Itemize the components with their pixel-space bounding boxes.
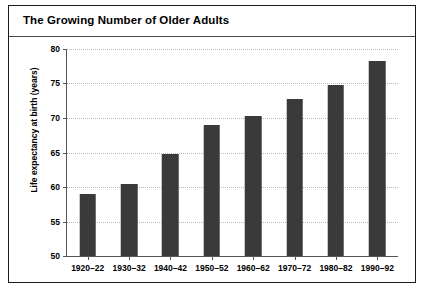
plot-area: 50556065707580 1920–221930–321940–421950… <box>66 49 398 257</box>
y-tick-mark <box>63 256 67 257</box>
bar-category-slot: 1990–92 <box>357 49 398 256</box>
bar[interactable] <box>79 194 96 256</box>
bar[interactable] <box>204 125 221 256</box>
bar[interactable] <box>121 184 138 256</box>
figure-container: The Growing Number of Older Adults Life … <box>8 5 416 283</box>
y-tick-label: 70 <box>51 113 60 123</box>
x-tick-mark <box>295 256 296 260</box>
x-tick-label: 1940–42 <box>154 263 187 273</box>
y-tick-label: 75 <box>51 78 60 88</box>
x-tick-label: 1930–32 <box>113 263 146 273</box>
x-tick-mark <box>129 256 130 260</box>
x-tick-label: 1950–52 <box>195 263 228 273</box>
bars-layer: 1920–221930–321940–421950–521960–621970–… <box>67 49 398 256</box>
page-title: The Growing Number of Older Adults <box>23 14 229 26</box>
x-tick-label: 1990–92 <box>361 263 394 273</box>
bar-category-slot: 1980–82 <box>315 49 356 256</box>
bar[interactable] <box>369 61 386 256</box>
bar-category-slot: 1940–42 <box>150 49 191 256</box>
bar-category-slot: 1930–32 <box>108 49 149 256</box>
y-tick-label: 50 <box>51 251 60 261</box>
bar[interactable] <box>286 99 303 256</box>
y-axis-title: Life expectancy at birth (years) <box>29 50 39 210</box>
x-tick-mark <box>253 256 254 260</box>
y-tick-label: 65 <box>51 148 60 158</box>
plot-wrapper: Life expectancy at birth (years) 5055606… <box>9 37 415 283</box>
x-tick-mark <box>88 256 89 260</box>
x-tick-mark <box>336 256 337 260</box>
x-tick-mark <box>212 256 213 260</box>
x-tick-label: 1970–72 <box>278 263 311 273</box>
y-tick-label: 80 <box>51 44 60 54</box>
x-tick-mark <box>377 256 378 260</box>
x-tick-label: 1920–22 <box>71 263 104 273</box>
bar-category-slot: 1970–72 <box>274 49 315 256</box>
y-tick-label: 55 <box>51 217 60 227</box>
x-tick-label: 1960–62 <box>237 263 270 273</box>
bar[interactable] <box>328 85 345 256</box>
bar-category-slot: 1920–22 <box>67 49 108 256</box>
x-tick-mark <box>170 256 171 260</box>
bar[interactable] <box>162 154 179 256</box>
x-tick-label: 1980–82 <box>319 263 352 273</box>
bar-category-slot: 1960–62 <box>233 49 274 256</box>
bar[interactable] <box>245 116 262 256</box>
title-bar: The Growing Number of Older Adults <box>9 6 415 37</box>
bar-category-slot: 1950–52 <box>191 49 232 256</box>
y-tick-label: 60 <box>51 182 60 192</box>
